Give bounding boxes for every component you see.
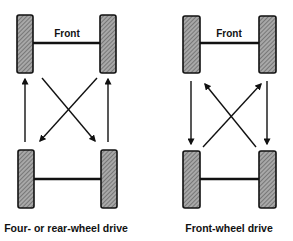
- caption-four-rear: Four- or rear-wheel drive: [4, 222, 128, 234]
- tire-front-left: [183, 16, 200, 73]
- tire-rear-right: [259, 151, 276, 208]
- arrow-cross-up-right-icon: [203, 84, 261, 147]
- diagram-four-rear: [17, 15, 117, 208]
- tire-front-right: [100, 15, 116, 73]
- arrow-cross-down-left-icon: [40, 78, 97, 141]
- diagram-front-wheel: [183, 16, 276, 208]
- tire-rear-left: [18, 150, 34, 208]
- front-label: Front: [216, 28, 242, 39]
- caption-front-wheel: Front-wheel drive: [185, 222, 273, 234]
- tire-rear-right: [101, 150, 117, 208]
- tire-front-right: [259, 16, 276, 73]
- tire-front-left: [17, 15, 33, 73]
- tire-rear-left: [183, 151, 200, 208]
- front-label: Front: [54, 28, 80, 39]
- tire-rotation-diagram: [0, 0, 293, 241]
